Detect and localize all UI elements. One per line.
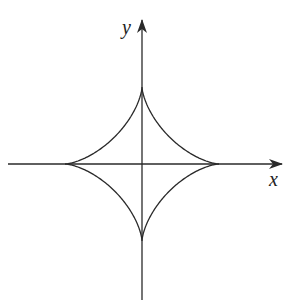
x-axis-label: x bbox=[268, 168, 278, 190]
astroid-diagram: x y bbox=[0, 0, 287, 302]
y-axis-label: y bbox=[120, 16, 131, 39]
